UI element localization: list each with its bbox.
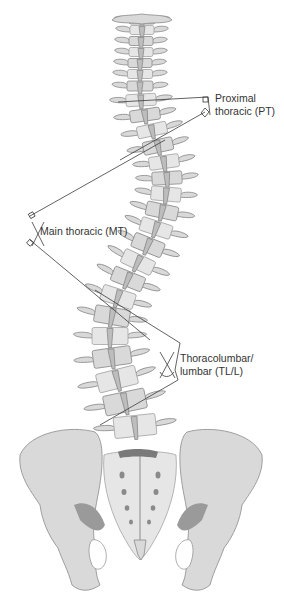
left-obturator (89, 540, 106, 569)
spinous-process (137, 60, 143, 71)
vertebra (109, 92, 173, 110)
proximal-thoracic-label-line1: Proximal (215, 92, 275, 105)
spine-illustration (0, 0, 284, 603)
spinous-process (164, 172, 171, 187)
thoracolumbar-lumbar-label-line2: lumbar (TL/L) (180, 365, 254, 378)
spinous-process (138, 49, 144, 60)
spinous-process (137, 82, 143, 94)
spinous-process (139, 27, 145, 38)
vertebra (114, 59, 167, 71)
vertebra (115, 37, 168, 49)
thoracolumbar-lumbar-label-line1: Thoracolumbar/ (180, 352, 254, 365)
vertebra (115, 48, 168, 60)
spinous-process (138, 95, 145, 109)
proximal-thoracic-label: Proximal thoracic (PT) (215, 92, 275, 118)
vertebra (116, 26, 169, 38)
pt-right-angle-lower (201, 108, 209, 117)
vertebra (113, 70, 168, 82)
spinous-process (138, 38, 144, 49)
pelvis (20, 429, 262, 590)
vertebra (135, 170, 199, 189)
spinous-process (162, 188, 169, 204)
atlas-vertebra (112, 14, 172, 24)
proximal-thoracic-label-line2: thoracic (PT) (215, 105, 275, 118)
vertebra (92, 411, 177, 444)
spinous-process (107, 329, 113, 348)
pt-right-angle-upper (203, 97, 208, 102)
main-thoracic-label-line1: Main thoracic (MT) (40, 225, 128, 238)
main-thoracic-label: Main thoracic (MT) (40, 225, 128, 238)
vertebra (112, 81, 168, 94)
vertebra (73, 328, 146, 348)
right-obturator (176, 540, 193, 569)
vertebra (73, 343, 152, 374)
spinous-process (137, 71, 143, 82)
thoracolumbar-lumbar-label: Thoracolumbar/ lumbar (TL/L) (180, 352, 254, 378)
